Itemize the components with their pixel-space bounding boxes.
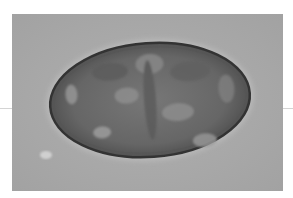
scan-line-right — [283, 108, 293, 109]
scan-line-left — [0, 108, 12, 109]
microscope-field — [12, 14, 283, 191]
debris-particle — [40, 151, 52, 159]
micrograph — [12, 14, 283, 191]
